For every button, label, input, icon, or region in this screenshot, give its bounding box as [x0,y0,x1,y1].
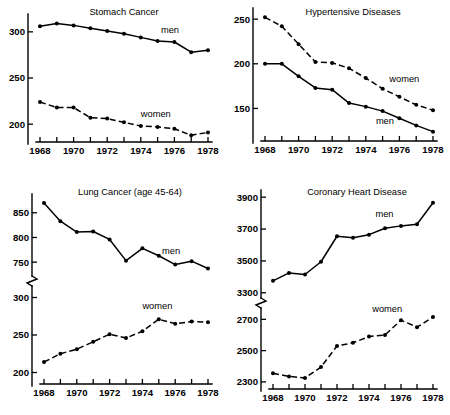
data-point-men [313,86,317,90]
chart-hypertensive-diseases: Hypertensive Diseases1502002501968197019… [225,0,450,200]
data-point-men [140,246,144,250]
x-tick-label: 1970 [294,392,315,403]
data-point-women [383,333,387,337]
data-point-men [319,260,323,264]
series-label-women: women [371,304,402,314]
x-tick-label: 1972 [97,145,118,156]
data-point-women [190,320,194,324]
data-point-women [287,374,291,378]
data-point-women [347,66,351,70]
data-point-women [156,125,160,129]
x-tick-label: 1972 [322,144,343,155]
series-line-women [44,319,208,362]
data-point-women [75,347,79,351]
data-point-women [364,76,368,80]
data-point-women [172,127,176,131]
panel-hypertensive-diseases: Hypertensive Diseases1502002501968197019… [225,0,450,200]
x-tick-label: 1978 [422,392,444,403]
data-point-women [72,106,76,110]
y-tick-label: 150 [234,103,250,114]
series-line-women [273,317,433,378]
panel-title: Stomach Cancer [89,7,158,17]
series-label-men: men [161,25,179,35]
series-label-men: men [162,246,180,256]
data-point-men [330,88,334,92]
series-line-women [40,102,208,135]
series-label-men: men [375,209,393,219]
series-line-men [273,203,433,281]
data-point-men [91,230,95,234]
y-tick-label: 250 [234,14,250,25]
data-point-men [88,26,92,30]
data-point-men [122,32,126,36]
data-point-men [364,105,368,109]
y-tick-label: 3900 [237,192,258,203]
data-point-women [157,317,161,321]
data-point-men [173,263,177,267]
x-tick-label: 1972 [99,387,120,398]
data-point-men [383,226,387,230]
data-point-women [88,116,92,120]
data-point-men [397,116,401,120]
data-point-men [399,224,403,228]
series-line-men [40,24,208,53]
data-point-women [124,336,128,340]
x-tick-label: 1976 [164,145,185,156]
data-point-women [271,371,275,375]
x-tick-label: 1974 [358,392,380,403]
x-tick-label: 1968 [262,392,284,403]
y-tick-label: 3500 [237,255,258,266]
data-point-men [156,39,160,43]
data-point-women [415,325,419,329]
data-point-women [319,365,323,369]
data-point-women [263,15,267,19]
x-tick-label: 1974 [130,145,152,156]
series-label-women: women [388,74,419,84]
panel-title: Coronary Heart Disease [307,187,407,197]
data-point-women [297,42,301,46]
data-point-women [91,340,95,344]
data-point-men [105,29,109,33]
data-point-men [58,219,62,223]
y-tick-label: 2700 [237,314,258,325]
series-line-women [265,17,433,110]
data-point-women [42,360,46,364]
data-point-women [431,108,435,112]
y-tick-label: 200 [234,58,250,69]
x-tick-label: 1976 [389,144,410,155]
data-point-men [303,272,307,276]
data-point-men [38,24,42,28]
data-point-women [108,332,112,336]
data-point-women [313,60,317,64]
data-point-men [190,259,194,263]
data-point-men [55,22,59,26]
mortality-trends-figure: Stomach Cancer20025030019681970197219741… [0,0,450,415]
series-label-men: men [376,116,394,126]
data-point-women [280,24,284,28]
y-tick-label: 250 [9,72,25,83]
data-point-men [157,254,161,258]
data-point-women [189,133,193,137]
data-point-women [206,320,210,324]
data-point-women [397,95,401,99]
x-tick-label: 1978 [197,145,219,156]
x-tick-label: 1968 [29,145,51,156]
data-point-men [172,40,176,44]
y-tick-label: 200 [9,119,25,130]
data-point-men [206,267,210,271]
data-point-women [55,106,59,110]
panel-title: Lung Cancer (age 45-64) [78,187,182,197]
x-tick-label: 1968 [254,144,276,155]
axis-break-marker [27,276,37,286]
data-point-women [122,120,126,124]
data-point-men [335,234,339,238]
data-point-women [367,335,371,339]
data-point-women [105,117,109,121]
data-point-women [335,344,339,348]
data-point-women [381,87,385,91]
data-point-women [58,352,62,356]
chart-coronary-heart-disease: Coronary Heart Disease230025002700330035… [225,180,450,415]
y-tick-label: 750 [13,257,29,268]
x-tick-label: 1976 [390,392,411,403]
x-tick-label: 1972 [326,392,347,403]
